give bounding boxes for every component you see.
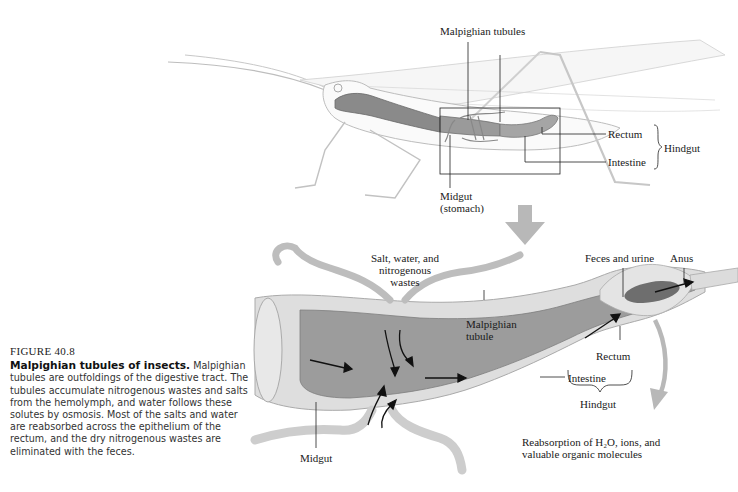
label-malpighian-tubule-2: tubule [466, 330, 494, 342]
label-salt-water-2: nitrogenous [345, 264, 465, 276]
gut-cut-end [254, 298, 282, 402]
label-rectum-upper: Rectum [608, 128, 642, 140]
figure-caption: FIGURE 40.8 Malpighian tubules of insect… [10, 345, 250, 458]
malpighian-tubule-bottom-right [392, 410, 462, 470]
malpighian-tubule-bottom-left [255, 410, 372, 440]
label-stomach-upper: (stomach) [440, 202, 484, 214]
label-salt-water-3: wastes [345, 276, 465, 288]
label-midgut-lower: Midgut [300, 452, 332, 464]
label-midgut-upper: Midgut [440, 190, 472, 202]
label-reabsorption-1: Reabsorption of H₂O, ions, and [522, 436, 660, 448]
label-intestine-upper: Intestine [608, 156, 646, 168]
label-reabsorption-2: valuable organic molecules [522, 448, 642, 460]
figure-number: FIGURE 40.8 [10, 345, 250, 357]
label-hindgut-lower: Hindgut [580, 398, 616, 410]
label-hindgut-upper: Hindgut [664, 142, 700, 154]
label-rectum-lower: Rectum [596, 350, 630, 362]
down-arrow [505, 205, 545, 245]
label-feces-urine: Feces and urine [585, 252, 654, 264]
figure-title: Malpighian tubules of insects. [10, 359, 190, 371]
reabsorption-arrowhead [650, 388, 668, 410]
hindgut-brace [654, 125, 662, 169]
label-anus: Anus [670, 252, 693, 264]
label-malpighian-tubules: Malpighian tubules [440, 25, 525, 37]
label-salt-water-1: Salt, water, and [345, 252, 465, 264]
reabsorption-arrow [655, 320, 665, 395]
label-intestine-lower: Intestine [568, 372, 606, 384]
antenna [168, 62, 325, 90]
label-malpighian-tubule-1: Malpighian [466, 318, 517, 330]
leg [295, 122, 345, 188]
figure-caption-text: Malpighian tubules are outfoldings of th… [10, 360, 248, 456]
